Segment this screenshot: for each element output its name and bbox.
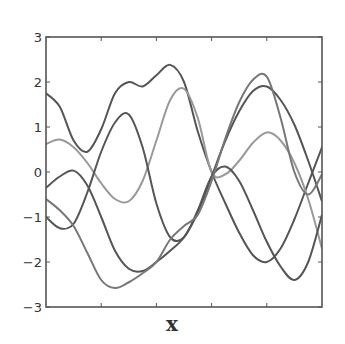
x-axis-label: x xyxy=(166,312,179,336)
y-tick-label: −3 xyxy=(23,300,42,315)
y-tick-label: 3 xyxy=(34,30,42,45)
background xyxy=(0,0,345,344)
line-chart: 3210−1−2−3 x xyxy=(0,0,345,344)
y-tick-label: 0 xyxy=(34,165,42,180)
y-tick-label: 1 xyxy=(34,120,42,135)
y-tick-label: −1 xyxy=(23,210,42,225)
y-tick-label: 2 xyxy=(34,75,42,90)
y-tick-label: −2 xyxy=(23,255,42,270)
